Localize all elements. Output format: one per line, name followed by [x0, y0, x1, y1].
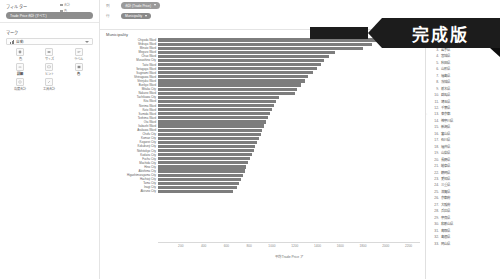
mark-button-color[interactable]: 色	[6, 48, 34, 61]
axis-tick-label: 2000	[382, 244, 389, 248]
mark-button-label: 角度合計	[14, 87, 26, 91]
list-item-number: 13.	[431, 111, 439, 117]
chart-plot-area: Chiyoda WardShibuya WardMinato WardMegur…	[100, 38, 425, 250]
axis-line	[158, 242, 420, 243]
marks-section: マーク 自動 色	[0, 26, 99, 91]
legend-row: 合計	[60, 3, 98, 7]
legend-label: 色	[64, 9, 67, 13]
legend-swatch-icon	[60, 10, 63, 13]
bar-row-label: Akiruno City	[100, 189, 158, 193]
pane-divider	[0, 22, 99, 23]
axis-tick-label: 1600	[337, 244, 344, 248]
mark-button-label: 色	[19, 57, 22, 61]
axis-tick-label: 2200	[405, 244, 412, 248]
list-item-label: 岡山県	[441, 241, 450, 247]
legend-label: 合計	[64, 3, 70, 7]
columns-shelf-label: 列	[106, 3, 118, 8]
axis-tick-label: 1800	[359, 244, 366, 248]
row-field-pill[interactable]: Municipality	[121, 13, 151, 20]
angle-icon	[16, 78, 24, 86]
mark-button-palette[interactable]: 色	[65, 63, 93, 76]
rows-shelf-label: 行	[106, 13, 118, 18]
mark-button-label: 詳細	[17, 72, 23, 76]
axis-tick-label: 800	[246, 244, 251, 248]
row-pill-label: Municipality	[125, 14, 142, 18]
shelf-legend: 合計 色	[60, 3, 98, 15]
tool-icon	[45, 78, 53, 86]
bar-row[interactable]: Akiruno City	[100, 189, 425, 193]
banner-text: 完成版	[412, 18, 469, 48]
prefecture-list[interactable]: 1.北海道2.青森県3.岩手県4.宮城県5.秋田県6.山形県7.福島県8.茨城県…	[425, 30, 500, 279]
marks-title: マーク	[6, 30, 93, 36]
mark-button-tool[interactable]: 工具合計	[35, 78, 63, 91]
mark-button-label: ヒント	[45, 72, 54, 76]
chevron-down-icon	[85, 41, 89, 43]
mark-button-tooltip[interactable]: ヒント	[35, 63, 63, 76]
marks-button-grid: 色 サイズ ラベル 詳	[6, 48, 93, 91]
axis-tick-label: 1000	[268, 244, 275, 248]
mark-button-detail[interactable]: 詳細	[6, 63, 34, 76]
axis-tick-label: 400	[201, 244, 206, 248]
filter-pill-label: Trade Price 合計 (すべて)	[10, 13, 47, 18]
mark-button-label: 色	[77, 72, 80, 76]
legend-swatch-icon	[60, 4, 63, 7]
mark-button-label: サイズ	[45, 57, 54, 61]
bar-mark[interactable]	[158, 190, 233, 193]
label-icon	[75, 48, 83, 56]
list-item[interactable]: 33.岡山県	[431, 241, 497, 247]
banner-arrow-icon	[368, 18, 382, 48]
bar-track	[158, 189, 425, 193]
column-field-pill[interactable]: 合計 (Trade Price)	[121, 2, 160, 9]
mark-type-label: 自動	[16, 39, 24, 44]
tooltip-icon	[45, 63, 53, 71]
axis-tick-label: 600	[224, 244, 229, 248]
mark-button-size[interactable]: サイズ	[35, 48, 63, 61]
banner-tail	[310, 27, 368, 39]
palette-icon	[75, 63, 83, 71]
bar-chart-view: Municipality Chiyoda WardShibuya WardMin…	[100, 30, 425, 279]
axis-tick-label: 200	[178, 244, 183, 248]
axis-tick-label: 1400	[314, 244, 321, 248]
legend-row: 色	[60, 9, 98, 13]
tableau-workbook-screenshot: フィルター Trade Price 合計 (すべて) マーク 自動	[0, 0, 500, 279]
color-icon	[16, 48, 24, 56]
mark-button-angle[interactable]: 角度合計	[6, 78, 34, 91]
bar-chart-icon	[10, 40, 14, 44]
column-pill-label: 合計 (Trade Price)	[125, 3, 151, 8]
x-axis: 平均 Trade Price ア 20040060080010001200140…	[158, 242, 420, 272]
mark-button-label[interactable]: ラベル	[65, 48, 93, 61]
mark-button-label: ラベル	[74, 57, 83, 61]
list-item-number: 33.	[431, 241, 439, 247]
left-pane: フィルター Trade Price 合計 (すべて) マーク 自動	[0, 0, 100, 279]
chevron-down-icon	[145, 15, 147, 17]
x-axis-title: 平均 Trade Price ア	[275, 254, 303, 259]
axis-tick-label: 1200	[291, 244, 298, 248]
detail-icon	[16, 63, 24, 71]
banner-band: 完成版	[382, 18, 500, 48]
chevron-down-icon	[154, 4, 156, 6]
bar-rows: Chiyoda WardShibuya WardMinato WardMegur…	[100, 38, 425, 194]
columns-shelf: 列 合計 (Trade Price)	[100, 0, 500, 9]
size-icon	[45, 48, 53, 56]
mark-type-select[interactable]: 自動	[6, 38, 93, 45]
mark-button-label: 工具合計	[43, 87, 55, 91]
